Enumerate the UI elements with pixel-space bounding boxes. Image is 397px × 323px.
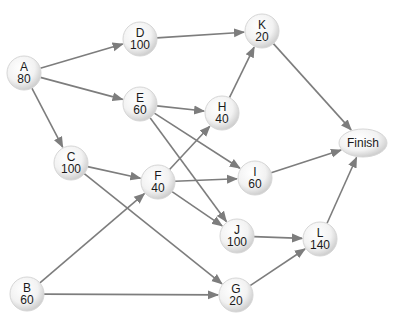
edge-j-l [254, 237, 302, 239]
node-value: 20 [255, 30, 269, 44]
edge-e-h [157, 106, 204, 111]
node-c: C100 [54, 146, 88, 180]
edge-d-k [157, 32, 244, 38]
edge-a-c [32, 88, 63, 147]
node-value: 60 [20, 293, 34, 307]
node-value: 40 [215, 112, 229, 126]
node-value: 100 [61, 162, 81, 176]
node-value: 100 [227, 235, 247, 249]
edge-g-l [250, 249, 305, 286]
node-value: 20 [229, 294, 243, 308]
node-h: H40 [205, 96, 239, 130]
node-l: L140 [303, 222, 337, 256]
node-value: 140 [310, 238, 330, 252]
edge-i-finish [271, 150, 341, 173]
node-i: I60 [238, 161, 272, 195]
node-value: 60 [133, 103, 147, 117]
node-b: B60 [10, 277, 44, 311]
edge-c-f [88, 167, 141, 179]
edge-f-j [172, 192, 222, 226]
edge-f-h [170, 126, 210, 169]
node-a: A80 [7, 56, 41, 90]
node-d: D100 [123, 22, 157, 56]
edge-l-finish [327, 157, 357, 223]
edge-h-k [229, 47, 254, 98]
node-f: F40 [141, 165, 175, 199]
edge-a-d [40, 44, 122, 68]
edge-b-f [40, 194, 144, 283]
node-value: 100 [130, 38, 150, 52]
network-diagram: A80B60C100D100E60F40G20H40I60J100K20L140… [0, 0, 397, 323]
node-value: 80 [17, 72, 31, 86]
node-g: G20 [219, 278, 253, 312]
node-k: K20 [245, 14, 279, 48]
node-value: 40 [151, 181, 165, 195]
edge-a-e [40, 77, 122, 99]
node-finish: Finish [339, 129, 387, 157]
edge-k-finish [273, 44, 351, 130]
node-label: Finish [347, 136, 379, 150]
node-j: J100 [220, 219, 254, 253]
edge-b-g [44, 294, 218, 295]
nodes-layer: A80B60C100D100E60F40G20H40I60J100K20L140… [7, 14, 387, 312]
edge-f-i [175, 179, 237, 182]
node-e: E60 [123, 87, 157, 121]
node-value: 60 [248, 177, 262, 191]
